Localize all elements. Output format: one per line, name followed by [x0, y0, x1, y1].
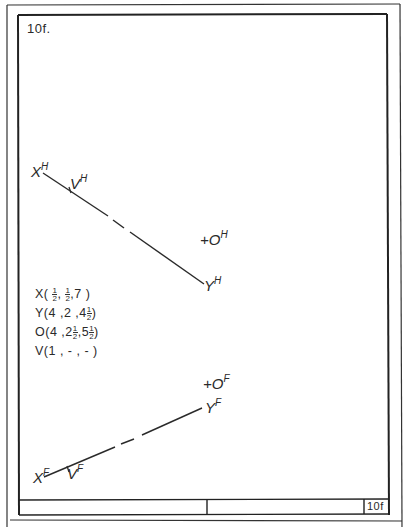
sheet-label-title-block: 10f — [367, 500, 384, 512]
point-v-h-label: VH — [70, 173, 87, 192]
point-y-f-label: YF — [205, 397, 221, 416]
coord-y: Y(4 ,2 ,412) — [35, 304, 99, 323]
line-xy-horizontal-view — [43, 173, 204, 284]
point-o-f-label: +OF — [203, 373, 230, 392]
coordinates-list: X( 12, 12,7 ) Y(4 ,2 ,412) O(4 ,212,512)… — [35, 285, 99, 361]
coord-o: O(4 ,212,512) — [35, 323, 99, 342]
coord-x: X( 12, 12,7 ) — [35, 285, 99, 304]
title-block — [19, 499, 389, 515]
point-v-f-label: VF — [67, 463, 83, 482]
point-x-f-label: XF — [33, 467, 49, 486]
point-y-h-label: YH — [204, 275, 221, 294]
coord-v: V(1 , - , - ) — [35, 342, 99, 361]
point-o-h-label: +OH — [200, 229, 228, 248]
outer-border — [7, 4, 402, 527]
point-x-h-label: XH — [31, 161, 48, 180]
drawing-canvas — [0, 0, 408, 527]
sheet-label-top: 10f. — [27, 21, 51, 36]
inner-frame — [18, 14, 389, 515]
